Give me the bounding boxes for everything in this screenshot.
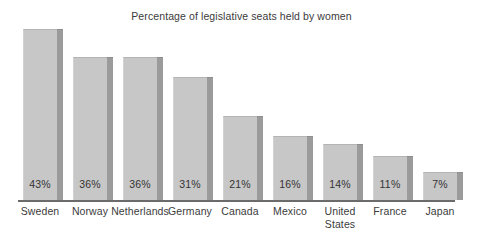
bar-chart-figure: Percentage of legislative seats held by … — [0, 0, 483, 247]
bar-side-shadow — [207, 77, 213, 200]
bar-shape: 43% — [23, 29, 63, 200]
bar-side-shadow — [357, 144, 363, 200]
bar-side-shadow — [407, 156, 413, 200]
bar-netherlands[interactable]: 36% — [123, 57, 163, 200]
bar-value-label: 21% — [223, 178, 257, 190]
bar-value-label: 7% — [423, 178, 457, 190]
bar-united-states[interactable]: 14% — [323, 144, 363, 200]
bar-germany[interactable]: 31% — [173, 77, 213, 200]
bar-mexico[interactable]: 16% — [273, 136, 313, 200]
bar-value-label: 11% — [373, 178, 407, 190]
bar-norway[interactable]: 36% — [73, 57, 113, 200]
bar-sweden[interactable]: 43% — [23, 29, 63, 200]
bar-canada[interactable]: 21% — [223, 116, 263, 200]
bar-side-shadow — [107, 57, 113, 200]
bar-side-shadow — [57, 29, 63, 200]
bar-face — [273, 136, 307, 200]
bar-shape: 11% — [373, 156, 413, 200]
bar-value-label: 36% — [123, 178, 157, 190]
category-label-line: States — [309, 218, 371, 231]
bar-face — [323, 144, 357, 200]
category-label-japan: Japan — [409, 205, 471, 218]
bar-shape: 7% — [423, 172, 463, 200]
bar-value-label: 14% — [323, 178, 357, 190]
bar-japan[interactable]: 7% — [423, 172, 463, 200]
bar-shape: 16% — [273, 136, 313, 200]
bar-value-label: 16% — [273, 178, 307, 190]
bar-side-shadow — [257, 116, 263, 200]
category-label-line: Japan — [409, 205, 471, 218]
bar-face — [23, 29, 57, 200]
bar-value-label: 31% — [173, 178, 207, 190]
bar-side-shadow — [157, 57, 163, 200]
bar-side-shadow — [307, 136, 313, 200]
bar-shape: 36% — [123, 57, 163, 200]
bar-side-shadow — [457, 172, 463, 200]
bar-shape: 36% — [73, 57, 113, 200]
bar-shape: 14% — [323, 144, 363, 200]
bar-value-label: 43% — [23, 178, 57, 190]
bar-shape: 21% — [223, 116, 263, 200]
x-axis-line — [18, 200, 455, 202]
bar-shape: 31% — [173, 77, 213, 200]
bar-france[interactable]: 11% — [373, 156, 413, 200]
bar-value-label: 36% — [73, 178, 107, 190]
